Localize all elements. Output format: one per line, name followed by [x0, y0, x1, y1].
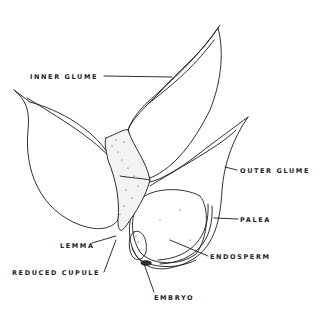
label-inner-glume: INNER GLUME [30, 73, 98, 81]
embryo-leader [144, 264, 154, 292]
label-embryo: EMBRYO [154, 294, 194, 302]
label-endosperm: ENDOSPERM [210, 253, 271, 261]
inner-glume-leader [104, 76, 172, 77]
inner-glume-outline [128, 28, 221, 178]
label-reduced-cupule: REDUCED CUPULE [12, 269, 100, 277]
left-bract-outline [14, 90, 120, 229]
label-lemma: LEMMA [60, 242, 95, 250]
palea-leader [214, 218, 238, 219]
cupule-leader [104, 240, 116, 272]
lemma-leader [92, 236, 116, 243]
spikelet-drawing [0, 0, 325, 314]
diagram-canvas: INNER GLUME OUTER GLUME PALEA ENDOSPERM … [0, 0, 325, 314]
rachilla-outline [105, 130, 150, 231]
outer-glume-leader [225, 167, 237, 170]
label-outer-glume: OUTER GLUME [240, 167, 310, 175]
label-palea: PALEA [240, 216, 271, 224]
